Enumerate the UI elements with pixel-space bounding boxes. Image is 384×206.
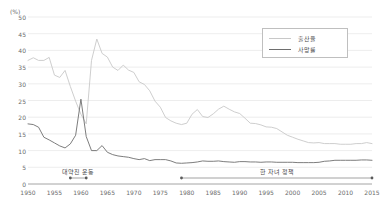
legend-swatch-birth-rate: [269, 38, 291, 39]
annotation-label-great-leap-forward: 대약진 운동: [62, 167, 94, 176]
legend-item-death-rate: 사망률: [269, 44, 341, 55]
series-line-death-rate: [28, 99, 372, 163]
annotation-span-endpoint: [371, 177, 374, 180]
legend-label-death-rate: 사망률: [298, 47, 316, 53]
chart-legend: 출산율 사망률: [262, 28, 348, 58]
legend-swatch-death-rate: [269, 49, 291, 50]
legend-label-birth-rate: 출산율: [298, 36, 316, 42]
annotation-label-one-child-policy: 한 자녀 정책: [260, 167, 294, 176]
annotation-span-endpoint: [85, 177, 88, 180]
annotation-span-endpoint: [180, 177, 183, 180]
annotation-span-endpoint: [69, 177, 72, 180]
legend-item-birth-rate: 출산율: [269, 33, 341, 44]
